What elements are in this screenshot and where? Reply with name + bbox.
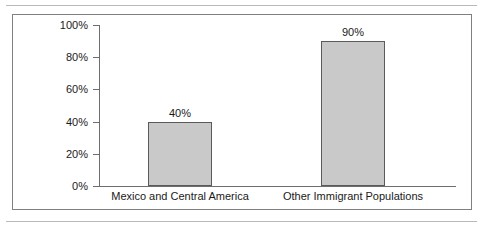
y-tick-label-5: 100% xyxy=(60,19,88,31)
y-tick-0: 0% xyxy=(93,186,99,187)
y-tick-label-1: 20% xyxy=(66,148,88,160)
y-tick-1: 20% xyxy=(93,154,99,155)
category-label-0: Mexico and Central America xyxy=(100,190,260,203)
y-tick-label-0: 0% xyxy=(72,180,88,192)
chart-frame: 0% 20% 40% 60% 80% 100% 40% 90% Mexico a… xyxy=(12,14,472,210)
y-tick-label-3: 60% xyxy=(66,83,88,95)
y-tick-5: 100% xyxy=(93,25,99,26)
y-tick-label-4: 80% xyxy=(66,51,88,63)
x-axis-line xyxy=(99,186,456,187)
bar-other-immigrant-populations: 90% xyxy=(321,41,385,186)
y-tick-3: 60% xyxy=(93,89,99,90)
bar-value-label-0: 40% xyxy=(169,107,191,119)
plot-area: 0% 20% 40% 60% 80% 100% 40% 90% Mexico a… xyxy=(13,15,471,209)
y-tick-label-2: 40% xyxy=(66,116,88,128)
bottom-horizontal-rule xyxy=(6,221,477,222)
bar-value-label-1: 90% xyxy=(342,26,364,38)
y-axis-line xyxy=(99,25,100,186)
bar-mexico-and-central-america: 40% xyxy=(148,122,212,186)
y-tick-2: 40% xyxy=(93,122,99,123)
top-horizontal-rule xyxy=(6,5,477,6)
category-label-1: Other Immigrant Populations xyxy=(273,190,433,203)
y-tick-4: 80% xyxy=(93,57,99,58)
cut-off-caption-remnant xyxy=(18,0,465,4)
